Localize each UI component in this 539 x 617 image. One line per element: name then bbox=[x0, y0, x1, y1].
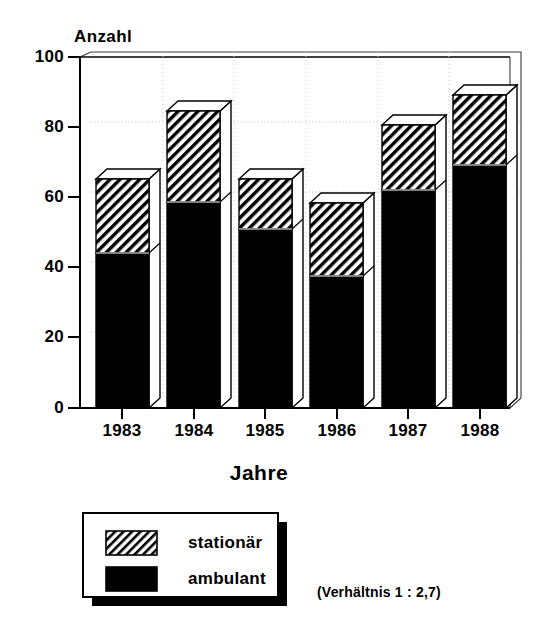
bar-1983-ambulant bbox=[96, 253, 149, 408]
bar-1987-side bbox=[435, 115, 446, 408]
bar-1986-stationaer bbox=[310, 203, 363, 276]
legend-swatch-stationaer bbox=[106, 531, 157, 555]
chart-figure: Anzahl 100 80 60 40 20 0 1983 1984 1985 … bbox=[0, 0, 539, 617]
x-tick-label-1986: 1986 bbox=[297, 421, 377, 441]
bar-group-1983[interactable] bbox=[96, 169, 160, 408]
bar-group-1986[interactable] bbox=[310, 193, 374, 408]
x-axis-title: Jahre bbox=[230, 461, 289, 485]
legend-swatch-ambulant bbox=[106, 567, 157, 591]
bar-1986-ambulant bbox=[310, 276, 363, 408]
bar-group-1987[interactable] bbox=[382, 115, 446, 408]
x-axis bbox=[80, 408, 510, 419]
bar-1985-side bbox=[292, 169, 303, 408]
bar-1983-top bbox=[96, 169, 160, 179]
x-tick-label-1985: 1985 bbox=[225, 421, 305, 441]
bar-1985-ambulant bbox=[239, 229, 292, 408]
bar-1986-side bbox=[363, 193, 374, 408]
x-tick-label-1988: 1988 bbox=[440, 421, 520, 441]
x-tick-label-1987: 1987 bbox=[368, 421, 448, 441]
bar-1987-top bbox=[382, 115, 446, 125]
bar-1987-stationaer bbox=[382, 125, 435, 190]
bar-1985-stationaer bbox=[239, 179, 292, 229]
bar-1986-top bbox=[310, 193, 374, 203]
bar-group-1984[interactable] bbox=[167, 101, 231, 408]
bar-1985-top bbox=[239, 169, 303, 179]
y-tick-label-0: 0 bbox=[8, 398, 64, 418]
bar-1988-stationaer bbox=[453, 95, 506, 165]
bar-1983-stationaer bbox=[96, 179, 149, 253]
y-axis bbox=[68, 57, 80, 408]
footnote-ratio: (Verhältnis 1 : 2,7) bbox=[317, 584, 441, 600]
bar-1988-top bbox=[453, 85, 517, 95]
bar-1984-top bbox=[167, 101, 231, 111]
bar-1984-ambulant bbox=[167, 202, 220, 408]
bar-1984-side bbox=[220, 101, 231, 408]
y-tick-label-100: 100 bbox=[8, 47, 64, 67]
legend[interactable] bbox=[83, 513, 287, 606]
y-tick-label-60: 60 bbox=[8, 187, 64, 207]
x-tick-label-1983: 1983 bbox=[82, 421, 162, 441]
y-tick-label-80: 80 bbox=[8, 117, 64, 137]
bar-1983-side bbox=[149, 169, 160, 408]
bar-1987-ambulant bbox=[382, 190, 435, 408]
x-tick-label-1984: 1984 bbox=[154, 421, 234, 441]
legend-label-stationaer: stationär bbox=[188, 533, 263, 553]
bar-group-1988[interactable] bbox=[453, 85, 517, 408]
y-axis-title: Anzahl bbox=[74, 27, 132, 47]
bar-1988-ambulant bbox=[453, 165, 506, 408]
bar-group-1985[interactable] bbox=[239, 169, 303, 408]
y-tick-label-20: 20 bbox=[8, 327, 64, 347]
chart-canvas bbox=[0, 0, 539, 617]
legend-label-ambulant: ambulant bbox=[188, 569, 266, 589]
bar-1988-side bbox=[506, 85, 517, 408]
bar-1984-stationaer bbox=[167, 111, 220, 202]
y-tick-label-40: 40 bbox=[8, 257, 64, 277]
